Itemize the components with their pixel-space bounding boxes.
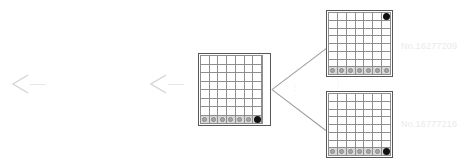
board-cell[interactable]: [218, 73, 227, 82]
board-cell[interactable]: [245, 82, 254, 91]
board-cell[interactable]: [245, 116, 254, 125]
board-cell[interactable]: [236, 73, 245, 82]
board-cell[interactable]: [236, 107, 245, 116]
board-cell[interactable]: [218, 65, 227, 74]
board-cell[interactable]: [210, 73, 219, 82]
board-cell[interactable]: [356, 36, 365, 44]
board-cell[interactable]: [347, 13, 356, 21]
board-cell[interactable]: [329, 60, 338, 68]
board-cell[interactable]: [373, 102, 382, 110]
board-cell[interactable]: [356, 110, 365, 118]
board-cell[interactable]: [338, 110, 347, 118]
board-cell[interactable]: [210, 56, 219, 65]
board-cell[interactable]: [201, 116, 210, 125]
board-cell[interactable]: [338, 21, 347, 29]
board-cell[interactable]: [356, 60, 365, 68]
board-cell[interactable]: [201, 82, 210, 91]
board-cell[interactable]: [227, 73, 236, 82]
board-cell[interactable]: [218, 82, 227, 91]
board-cell[interactable]: [347, 60, 356, 68]
board-cell[interactable]: [253, 65, 262, 74]
board-cell[interactable]: [382, 125, 391, 133]
board-cell[interactable]: [373, 125, 382, 133]
board-cell[interactable]: [218, 90, 227, 99]
board-cell[interactable]: [347, 148, 356, 156]
board-cell[interactable]: [364, 44, 373, 52]
board-cell[interactable]: [356, 52, 365, 60]
board-cell[interactable]: [356, 133, 365, 141]
board-cell[interactable]: [236, 82, 245, 91]
board-cell[interactable]: [253, 116, 262, 125]
board-cell[interactable]: [227, 99, 236, 108]
board-cell[interactable]: [227, 107, 236, 116]
board-cell[interactable]: [329, 141, 338, 149]
board-cell[interactable]: [373, 21, 382, 29]
board-cell[interactable]: [356, 125, 365, 133]
board-cell[interactable]: [364, 13, 373, 21]
board-cell[interactable]: [364, 133, 373, 141]
board-cell[interactable]: [338, 148, 347, 156]
board-cell[interactable]: [364, 117, 373, 125]
board-cell[interactable]: [338, 13, 347, 21]
board-cell[interactable]: [373, 110, 382, 118]
board-cell[interactable]: [329, 44, 338, 52]
board-cell[interactable]: [329, 13, 338, 21]
board-cell[interactable]: [364, 141, 373, 149]
board-cell[interactable]: [347, 125, 356, 133]
board-cell[interactable]: [347, 67, 356, 75]
board-cell[interactable]: [364, 94, 373, 102]
board-cell[interactable]: [253, 90, 262, 99]
board-cell[interactable]: [364, 102, 373, 110]
board-cell[interactable]: [356, 102, 365, 110]
board-cell[interactable]: [356, 67, 365, 75]
board-cell[interactable]: [347, 110, 356, 118]
board-cell[interactable]: [382, 13, 391, 21]
board-cell[interactable]: [373, 94, 382, 102]
board-cell[interactable]: [382, 141, 391, 149]
board-cell[interactable]: [338, 67, 347, 75]
board-cell[interactable]: [236, 99, 245, 108]
board-cell[interactable]: [245, 99, 254, 108]
board-cell[interactable]: [373, 133, 382, 141]
board-cell[interactable]: [373, 36, 382, 44]
board-cell[interactable]: [356, 148, 365, 156]
board-cell[interactable]: [356, 94, 365, 102]
board-cell[interactable]: [253, 82, 262, 91]
board-cell[interactable]: [382, 67, 391, 75]
board-cell[interactable]: [210, 65, 219, 74]
board-cell[interactable]: [364, 52, 373, 60]
board-cell[interactable]: [356, 21, 365, 29]
board-cell[interactable]: [338, 133, 347, 141]
board-cell[interactable]: [245, 107, 254, 116]
board-cell[interactable]: [373, 67, 382, 75]
board-cell[interactable]: [373, 60, 382, 68]
board-cell[interactable]: [329, 29, 338, 37]
board-cell[interactable]: [218, 107, 227, 116]
board-cell[interactable]: [382, 110, 391, 118]
board-cell[interactable]: [329, 21, 338, 29]
board-cell[interactable]: [329, 67, 338, 75]
board-cell[interactable]: [329, 36, 338, 44]
board-cell[interactable]: [338, 52, 347, 60]
board-cell[interactable]: [236, 65, 245, 74]
board-cell[interactable]: [373, 148, 382, 156]
board-cell[interactable]: [347, 133, 356, 141]
board-cell[interactable]: [373, 29, 382, 37]
board-cell[interactable]: [227, 65, 236, 74]
board-cell[interactable]: [236, 90, 245, 99]
board-cell[interactable]: [356, 13, 365, 21]
board-cell[interactable]: [347, 52, 356, 60]
board-cell[interactable]: [347, 44, 356, 52]
board-cell[interactable]: [364, 125, 373, 133]
board-cell[interactable]: [382, 52, 391, 60]
board-cell[interactable]: [329, 102, 338, 110]
board-cell[interactable]: [382, 36, 391, 44]
board-cell[interactable]: [373, 117, 382, 125]
board-cell[interactable]: [338, 117, 347, 125]
board-cell[interactable]: [382, 148, 391, 156]
board-cell[interactable]: [227, 82, 236, 91]
board-cell[interactable]: [210, 90, 219, 99]
board-cell[interactable]: [364, 21, 373, 29]
board-cell[interactable]: [338, 36, 347, 44]
board-cell[interactable]: [373, 13, 382, 21]
